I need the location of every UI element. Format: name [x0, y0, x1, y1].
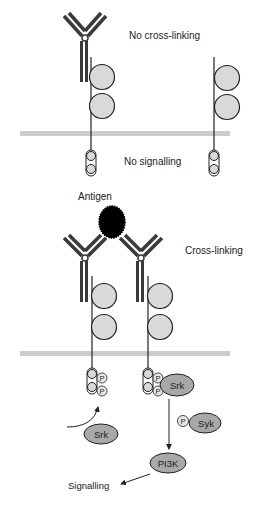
- no-signalling-label: No signalling: [124, 156, 181, 167]
- pi3k-kinase-icon: PI3K: [150, 453, 186, 473]
- antigen-icon: [99, 206, 125, 238]
- ig-domain-icon: [90, 65, 115, 90]
- bottom-panel: Antigen Cross-linking: [20, 191, 243, 491]
- svg-text:P: P: [155, 387, 160, 396]
- top-panel: No cross-linking No signalling: [20, 13, 240, 176]
- ig-domain-icon: [215, 66, 240, 91]
- itam-phosphorylated-icon: P P: [143, 368, 163, 396]
- itam-phosphorylated-icon: P P: [87, 368, 107, 396]
- ig-domain-icon: [148, 284, 173, 309]
- svg-text:Syk: Syk: [198, 418, 214, 429]
- ig-domain-icon: [90, 94, 115, 119]
- svg-text:Srk: Srk: [170, 380, 185, 391]
- syk-kinase-icon: Syk P: [178, 413, 222, 433]
- svg-text:P: P: [99, 374, 104, 383]
- srk-bound-kinase-icon: Srk: [160, 374, 194, 396]
- ig-domain-icon: [92, 315, 117, 340]
- svg-text:Srk: Srk: [94, 429, 109, 440]
- itam-icon: [209, 150, 219, 176]
- svg-text:P: P: [155, 374, 160, 383]
- signalling-arrow: [121, 474, 150, 484]
- ig-domain-icon: [92, 284, 117, 309]
- itam-icon: [86, 150, 96, 176]
- cell-membrane: [20, 131, 230, 136]
- srk-free-kinase-icon: Srk: [84, 424, 118, 444]
- svg-text:P: P: [99, 387, 104, 396]
- svg-text:P: P: [180, 417, 185, 426]
- recruitment-arrow: [67, 407, 98, 427]
- cell-membrane: [20, 351, 230, 356]
- ig-domain-icon: [215, 95, 240, 120]
- antigen-label: Antigen: [78, 191, 112, 202]
- signalling-label: Signalling: [68, 480, 109, 491]
- cross-linking-label: Cross-linking: [185, 245, 243, 256]
- ig-domain-icon: [148, 315, 173, 340]
- bcr-signalling-diagram: No cross-linking No signalling Antigen C…: [0, 0, 259, 505]
- no-cross-linking-label: No cross-linking: [129, 30, 200, 41]
- svg-text:PI3K: PI3K: [158, 458, 179, 469]
